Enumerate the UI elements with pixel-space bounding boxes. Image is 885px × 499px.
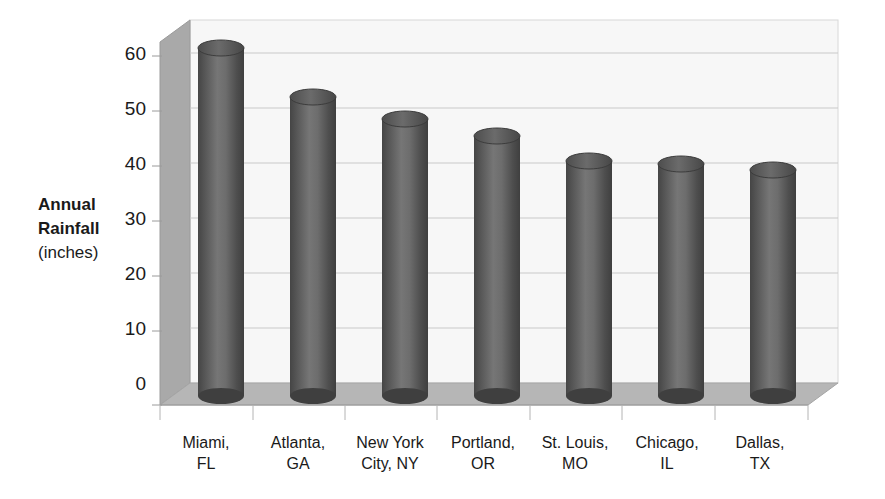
bar-st-louis-mo [566,153,612,404]
bar-portland-or [474,128,520,404]
bar-new-york-city-ny [382,111,428,404]
x-tick-label-miami-fl: Miami, FL [157,432,255,474]
plot-side-wall [160,20,190,405]
bar-chart: Annual Rainfall (inches) 60 50 40 30 20 … [0,0,885,499]
x-tick-label-portland-or: Portland, OR [434,432,532,474]
bar-dallas-tx [750,162,796,404]
x-tick-label-dallas-tx: Dallas, TX [711,432,809,474]
plot-area [0,0,885,499]
bar-miami-fl [198,40,244,404]
x-tick-label-new-york-city-ny: New York City, NY [341,432,439,474]
x-axis-ticks [160,405,808,420]
x-tick-label-chicago-il: Chicago, IL [618,432,716,474]
bar-chicago-il [658,156,704,404]
x-tick-label-st-louis-mo: St. Louis, MO [526,432,624,474]
x-tick-label-atlanta-ga: Atlanta, GA [249,432,347,474]
bar-atlanta-ga [290,89,336,404]
